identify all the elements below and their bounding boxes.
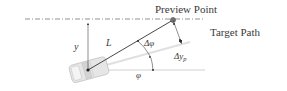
target-path-label: Target Path (210, 26, 261, 38)
delta-phi-label: Δφ (143, 38, 154, 48)
vehicle-reference-point (86, 68, 89, 71)
y-label: y (73, 41, 79, 52)
preview-distance-line (88, 20, 173, 70)
phi-arc (151, 58, 153, 70)
L-label: L (105, 37, 112, 48)
delta-y-label: Δyp (173, 51, 187, 62)
phi-label: φ (136, 70, 141, 80)
preview-point-label: Preview Point (155, 3, 217, 15)
preview-control-diagram: Preview Point Target Path y L Δφ Δyp φ (0, 0, 287, 91)
